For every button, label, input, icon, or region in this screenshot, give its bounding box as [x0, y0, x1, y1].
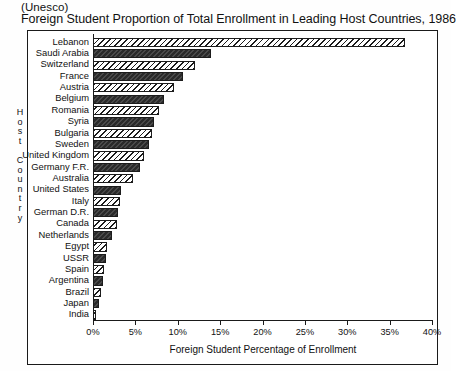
bar: [93, 83, 174, 92]
category-label: United Kingdom: [3, 150, 89, 160]
category-label: Germany F.R.: [3, 162, 89, 172]
x-axis-tick: [347, 320, 348, 325]
category-label: USSR: [3, 253, 89, 263]
category-label: German D.R.: [3, 207, 89, 217]
category-label: Romania: [3, 105, 89, 115]
bar: [93, 265, 104, 274]
bar: [93, 49, 211, 58]
x-axis-title: Foreign Student Percentage of Enrollment: [93, 344, 433, 355]
category-label: Egypt: [3, 241, 89, 251]
bar: [93, 95, 164, 104]
bar: [93, 197, 120, 206]
x-axis-tick-label: 5%: [118, 327, 152, 337]
x-axis-tick-label: 30%: [330, 327, 364, 337]
bar: [93, 231, 112, 240]
x-axis-tick: [263, 320, 264, 325]
x-axis-tick-label: 40%: [415, 327, 449, 337]
category-label: Brazil: [3, 287, 89, 297]
bar: [93, 106, 159, 115]
category-label: Argentina: [3, 275, 89, 285]
x-axis-tick: [135, 320, 136, 325]
bar: [93, 163, 140, 172]
bar: [93, 61, 195, 70]
bar: [93, 174, 133, 183]
category-label: France: [3, 71, 89, 81]
category-label: Canada: [3, 218, 89, 228]
x-axis-tick-label: 0%: [76, 327, 110, 337]
x-axis-tick-label: 10%: [161, 327, 195, 337]
category-label: Sweden: [3, 139, 89, 149]
x-axis-tick-label: 35%: [373, 327, 407, 337]
chart-title: Foreign Student Proportion of Total Enro…: [21, 12, 456, 27]
bar: [93, 151, 144, 160]
bar: [93, 186, 121, 195]
category-label: India: [3, 309, 89, 319]
category-label: Japan: [3, 298, 89, 308]
category-label: Italy: [3, 196, 89, 206]
category-label: Belgium: [3, 93, 89, 103]
category-label: Saudi Arabia: [3, 48, 89, 58]
x-axis-tick: [220, 320, 221, 325]
bar: [93, 72, 183, 81]
bar: [93, 140, 149, 149]
category-label: Netherlands: [3, 230, 89, 240]
x-axis-tick-label: 20%: [246, 327, 280, 337]
x-axis-tick-label: 15%: [203, 327, 237, 337]
category-label: Syria: [3, 116, 89, 126]
x-axis-tick: [178, 320, 179, 325]
bar: [93, 288, 101, 297]
bar: [93, 220, 117, 229]
bar: [93, 129, 152, 138]
category-label: Bulgaria: [3, 128, 89, 138]
x-axis-tick-label: 25%: [288, 327, 322, 337]
bar: [93, 38, 405, 47]
bar: [93, 276, 103, 285]
bar: [93, 242, 107, 251]
category-label: Australia: [3, 173, 89, 183]
bar: [93, 117, 154, 126]
category-label-list: LebanonSaudi ArabiaSwitzerlandFranceAust…: [0, 36, 89, 320]
x-axis-tick: [305, 320, 306, 325]
category-label: Lebanon: [3, 37, 89, 47]
bar: [93, 254, 106, 263]
x-axis-tick: [93, 320, 94, 325]
x-axis-tick: [390, 320, 391, 325]
plot-area: [93, 36, 432, 320]
y-axis-line: [93, 34, 94, 321]
category-label: Switzerland: [3, 59, 89, 69]
x-axis-tick: [432, 320, 433, 325]
bar: [93, 208, 118, 217]
category-label: Spain: [3, 264, 89, 274]
category-label: Austria: [3, 82, 89, 92]
category-label: United States: [3, 184, 89, 194]
